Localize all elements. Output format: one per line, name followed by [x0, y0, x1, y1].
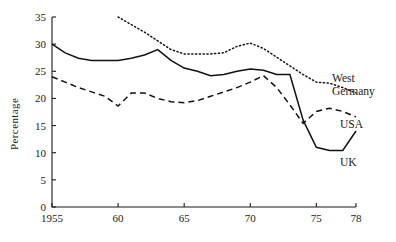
y-axis-title: Percentage [8, 98, 20, 150]
y-tick-label: 15 [35, 120, 47, 132]
data-series-group [52, 17, 356, 151]
series-label-uk: UK [340, 156, 357, 168]
x-tick-label: 75 [311, 212, 323, 224]
y-tick-label: 5 [41, 174, 47, 186]
x-tick-labels: 19556065707578 [41, 212, 362, 224]
x-tick-label: 78 [351, 212, 363, 224]
series-label-west-germany-line1: West [332, 72, 356, 84]
y-tick-label: 35 [35, 11, 47, 23]
chart-axes [52, 17, 356, 207]
y-tick-labels: 05101520253035 [35, 11, 47, 213]
x-tick-label: 60 [113, 212, 125, 224]
x-tick-label: 1955 [41, 212, 64, 224]
y-tick-label: 25 [35, 65, 47, 77]
series-line-usa [52, 76, 356, 124]
axis-lines [52, 17, 356, 207]
chart-container: Percentage 19556065707578 05101520253035… [0, 0, 396, 242]
y-tick-label: 0 [41, 201, 47, 213]
x-tick-label: 70 [245, 212, 257, 224]
y-tick-label: 10 [35, 147, 47, 159]
y-tick-label: 20 [35, 92, 47, 104]
tick-marks [52, 17, 356, 207]
series-line-uk [52, 44, 356, 150]
line-chart: Percentage 19556065707578 05101520253035… [0, 0, 396, 242]
series-line-west-germany [118, 17, 356, 93]
y-tick-label: 30 [35, 38, 47, 50]
x-tick-label: 65 [179, 212, 191, 224]
series-label-west-germany-line2: Germany [332, 85, 375, 98]
series-label-usa: USA [340, 118, 364, 130]
